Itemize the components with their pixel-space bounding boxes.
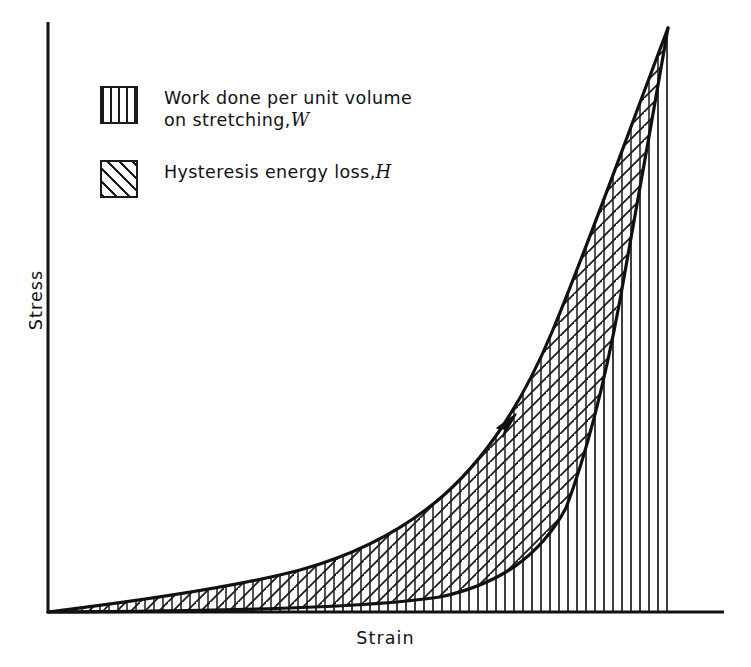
stress-strain-hysteresis-figure: Work done per unit volumeon stretching,W… bbox=[0, 0, 751, 667]
legend-entry-hysteresis: Hysteresis energy loss,H bbox=[100, 160, 392, 198]
legend-symbol-work: W bbox=[291, 109, 310, 130]
legend-label-work-line2: on stretching, bbox=[164, 110, 291, 130]
legend-label-work-line1: Work done per unit volume bbox=[164, 88, 412, 108]
legend-entry-work: Work done per unit volumeon stretching,W bbox=[100, 86, 412, 131]
legend-swatch-diagonal-hatch-icon bbox=[100, 160, 138, 198]
legend-label-work: Work done per unit volumeon stretching,W bbox=[164, 86, 412, 131]
y-axis-label-text: Stress bbox=[26, 270, 46, 330]
legend-label-hysteresis-line1: Hysteresis energy loss, bbox=[164, 162, 376, 182]
y-axis-label: Stress bbox=[26, 240, 46, 360]
legend-symbol-hysteresis: H bbox=[376, 161, 392, 182]
x-axis-label-text: Strain bbox=[336, 628, 414, 648]
legend-label-hysteresis: Hysteresis energy loss,H bbox=[164, 160, 392, 183]
legend-swatch-vertical-lines-icon bbox=[100, 86, 138, 124]
x-axis-label: Strain bbox=[0, 628, 751, 648]
